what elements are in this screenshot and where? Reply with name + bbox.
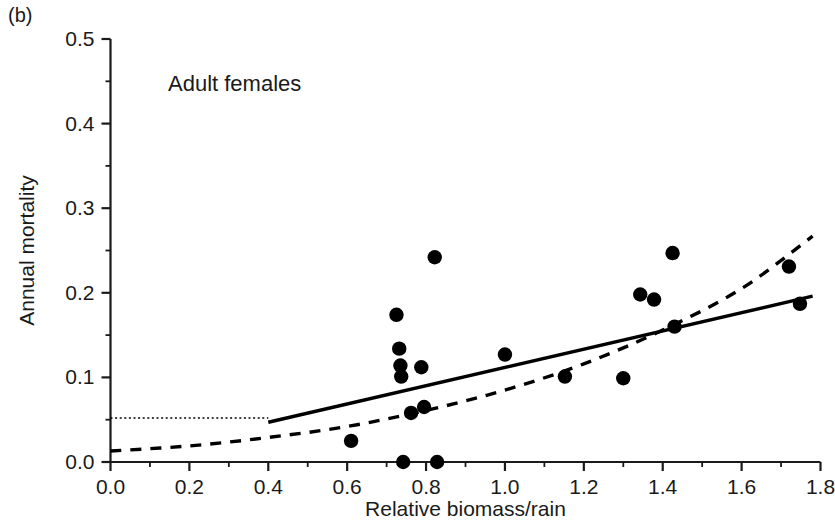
y-tick-label: 0.4	[65, 112, 95, 135]
dashed-fit-curve	[111, 236, 813, 451]
data-point	[647, 292, 661, 306]
x-tick-label: 1.2	[569, 475, 598, 498]
data-point	[404, 406, 418, 420]
figure-panel: (b) 0.00.20.40.60.81.01.21.41.61.80.00.1…	[0, 0, 835, 522]
data-point	[396, 455, 410, 469]
data-point	[394, 369, 408, 383]
data-point	[430, 455, 444, 469]
data-point	[417, 400, 431, 414]
data-point	[428, 250, 442, 264]
solid-fit-line	[268, 296, 812, 422]
axis-spines	[111, 39, 821, 462]
x-tick-label: 0.8	[411, 475, 440, 498]
data-point	[558, 369, 572, 383]
x-tick-label: 1.0	[490, 475, 519, 498]
x-tick-label: 0.4	[254, 475, 284, 498]
x-tick-label: 0.6	[333, 475, 362, 498]
data-point	[782, 259, 796, 273]
x-tick-label: 0.2	[175, 475, 204, 498]
x-tick-label: 1.4	[648, 475, 678, 498]
plot-annotation-label: Adult females	[168, 71, 301, 96]
data-point	[667, 319, 681, 333]
data-point	[665, 246, 679, 260]
y-tick-label: 0.2	[65, 281, 94, 304]
data-point	[392, 341, 406, 355]
x-tick-label: 1.8	[806, 475, 835, 498]
data-point	[389, 308, 403, 322]
y-tick-label: 0.0	[65, 450, 94, 473]
x-tick-label: 1.6	[727, 475, 756, 498]
y-tick-label: 0.1	[65, 365, 94, 388]
scatter-plot: 0.00.20.40.60.81.01.21.41.61.80.00.10.20…	[0, 0, 835, 522]
data-point	[793, 297, 807, 311]
x-tick-label: 0.0	[96, 475, 125, 498]
y-tick-label: 0.3	[65, 196, 94, 219]
data-point	[344, 434, 358, 448]
y-tick-label: 0.5	[65, 27, 94, 50]
x-axis-title: Relative biomass/rain	[365, 497, 566, 520]
y-axis-title: Annual mortality	[15, 175, 38, 326]
data-point	[616, 371, 630, 385]
data-point	[414, 360, 428, 374]
data-point	[498, 347, 512, 361]
data-point	[633, 287, 647, 301]
